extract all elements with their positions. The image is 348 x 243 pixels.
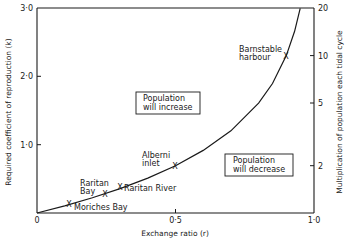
x-tick-0: 0 [34, 216, 39, 225]
y-right-axis-ticks [310, 56, 314, 166]
yr-tick-10: 10 [318, 52, 328, 61]
svg-text:Population: Population [143, 94, 185, 103]
x-tick-05: 0·5 [169, 216, 182, 225]
marker-raritan-bay: X [102, 190, 108, 199]
yr-tick-20: 20 [318, 4, 328, 13]
yr-tick-5: 5 [318, 99, 323, 108]
decrease-box: Population will decrease [225, 154, 293, 176]
svg-text:will increase: will increase [143, 103, 193, 112]
marker-barnstable: X [283, 52, 289, 61]
svg-text:will decrease: will decrease [233, 165, 285, 174]
chart: 1·0 2·0 3·0 0 0·5 1·0 2 5 10 20 Required… [0, 0, 348, 243]
label-barnstable-2: harbour [239, 53, 271, 62]
label-moriches: Moriches Bay [74, 203, 128, 212]
marker-alberni: X [172, 162, 178, 171]
y-tick-2: 2·0 [20, 72, 33, 81]
label-raritan-river: Raritan River [124, 184, 177, 193]
y-right-axis-title: Multiplication of population each tidal … [335, 30, 344, 194]
x-axis-title: Exchange ratio (r) [141, 229, 209, 238]
yr-tick-2: 2 [318, 162, 323, 171]
y-axis-title: Required coefficient of reproduction (k) [4, 38, 13, 185]
x-tick-10: 1·0 [308, 216, 321, 225]
label-raritan-bay-2: Bay [80, 187, 95, 196]
marker-raritan-river: X [117, 183, 123, 192]
increase-box: Population will increase [136, 92, 200, 114]
y-tick-1: 1·0 [20, 141, 33, 150]
marker-moriches: X [66, 200, 72, 209]
y-tick-3: 3·0 [20, 4, 33, 13]
svg-text:Population: Population [233, 156, 275, 165]
y-axis-ticks [37, 76, 41, 144]
label-alberni-2: inlet [142, 159, 160, 168]
